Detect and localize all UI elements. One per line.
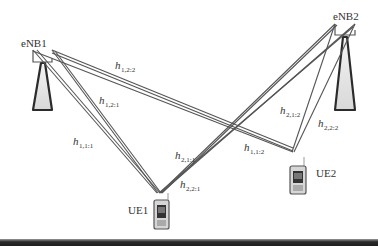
channel-links [33,24,355,193]
channel-label-h-1-2-1: h1,2:1 [99,94,119,109]
channel-label-h-2-1-1: h2,1:1 [175,149,195,164]
enb1-label: eNB1 [21,37,47,49]
ue1-label: UE1 [128,204,148,216]
link-h-2-1-2 [292,24,335,152]
enb2-tower-icon [335,24,355,110]
channel-label-h-2-2-1: h2,2:1 [180,178,200,193]
enb2-label: eNB2 [333,10,359,22]
channel-label-h-1-1-2: h1,1:2 [244,141,264,156]
ue2-phone-icon [290,157,306,194]
link-h-1-1-1 [33,50,157,193]
two-cell-two-ue-channel-diagram: eNB1 eNB2 UE1 UE2 h1,2:2 h1,2:1 h1,1:1 h… [0,0,378,246]
ue1-phone-icon [154,193,169,229]
channel-label-h-2-2-2: h2,2:2 [318,117,338,132]
channel-label-h-1-1-1: h1,1:1 [73,135,93,150]
channel-label-h-1-2-2: h1,2:2 [115,59,135,74]
enb1-tower-icon [33,50,52,110]
link-h-2-1-1 [160,24,335,193]
bottom-border [0,239,378,246]
channel-label-h-2-1-2: h2,1:2 [280,104,300,119]
ue2-label: UE2 [316,167,336,179]
